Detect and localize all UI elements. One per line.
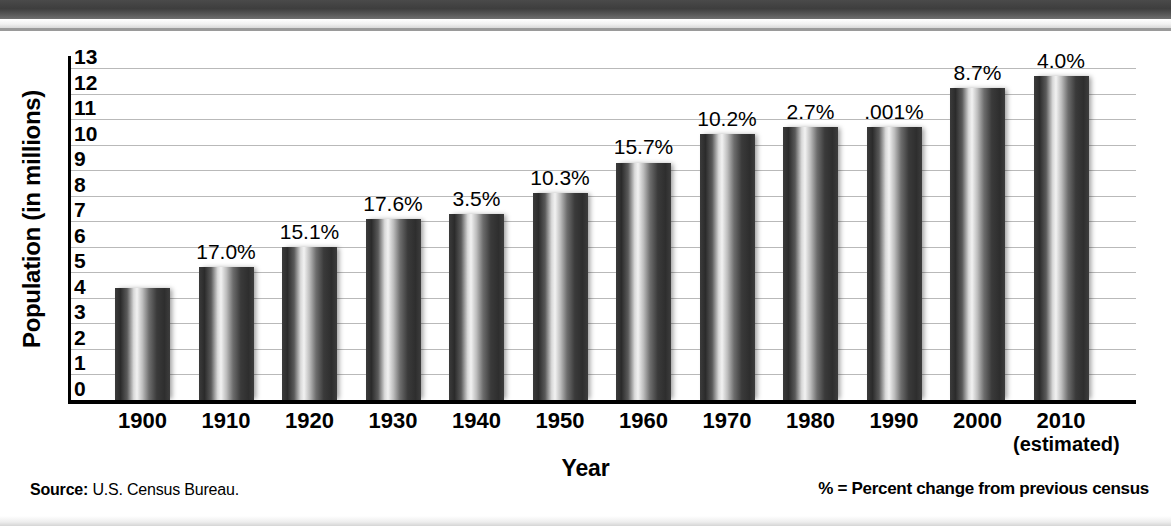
x-tick-label-1960: 1960 bbox=[596, 408, 692, 433]
x-tick-label-1910: 1910 bbox=[178, 408, 274, 433]
x-tick-label-1970: 1970 bbox=[679, 408, 775, 433]
bar-2010 bbox=[1034, 76, 1089, 400]
y-tick-label: 1 bbox=[74, 352, 86, 373]
x-axis-title: Year bbox=[0, 455, 1171, 482]
bar-1900 bbox=[115, 288, 170, 400]
y-tick-label: 10 bbox=[74, 123, 97, 144]
x-tick-label-1980: 1980 bbox=[763, 408, 859, 433]
x-tick-label-1940: 1940 bbox=[429, 408, 525, 433]
y-tick-label: 11 bbox=[74, 97, 96, 118]
bar-1920 bbox=[282, 247, 337, 400]
y-tick-label: 2 bbox=[74, 327, 86, 348]
x-tick-label-1900: 1900 bbox=[95, 408, 191, 433]
y-tick-label: 0 bbox=[74, 378, 86, 399]
bar-annotation-1950: 10.3% bbox=[511, 166, 609, 190]
x-tick-year: 1960 bbox=[619, 408, 668, 433]
x-tick-year: 1900 bbox=[118, 408, 167, 433]
y-tick-label: 13 bbox=[74, 46, 97, 67]
y-tick-label: 3 bbox=[74, 301, 86, 322]
title-banner bbox=[0, 0, 1171, 19]
x-tick-year: 2000 bbox=[953, 408, 1002, 433]
x-tick-year: 1990 bbox=[870, 408, 919, 433]
bar-1930 bbox=[366, 219, 421, 400]
x-axis-line bbox=[68, 400, 1136, 404]
y-tick-label: 5 bbox=[74, 250, 86, 271]
bar-1910 bbox=[199, 267, 254, 400]
bar-1960 bbox=[616, 163, 671, 401]
x-tick-year: 1950 bbox=[536, 408, 585, 433]
x-tick-year: 1910 bbox=[202, 408, 251, 433]
bar-1940 bbox=[449, 214, 504, 400]
header-divider bbox=[0, 28, 1171, 31]
source-value: U.S. Census Bureau. bbox=[92, 481, 239, 498]
bar-annotation-1910: 17.0% bbox=[177, 240, 275, 264]
x-tick-label-2010: 2010(estimated) bbox=[1013, 408, 1109, 456]
banner-gloss bbox=[0, 19, 1171, 28]
bar-2000 bbox=[950, 88, 1005, 400]
y-tick-label: 9 bbox=[74, 148, 86, 169]
x-tick-label-1990: 1990 bbox=[846, 408, 942, 433]
chart-plot-area: 012345678910111213 17.0%15.1%17.6%3.5%10… bbox=[68, 56, 1136, 404]
bar-annotation-1990: .001% bbox=[845, 100, 943, 124]
y-tick-label: 6 bbox=[74, 225, 86, 246]
x-tick-year: 1970 bbox=[703, 408, 752, 433]
x-tick-label-2000: 2000 bbox=[930, 408, 1026, 433]
y-axis-title: Population (in millions) bbox=[18, 44, 46, 394]
x-tick-label-1950: 1950 bbox=[512, 408, 608, 433]
bar-annotation-1940: 3.5% bbox=[428, 187, 526, 211]
y-tick-label: 8 bbox=[74, 174, 86, 195]
x-tick-sublabel: (estimated) bbox=[1013, 433, 1109, 456]
y-tick-label: 12 bbox=[74, 72, 97, 93]
percent-legend-note: % = Percent change from previous census bbox=[818, 479, 1149, 499]
x-tick-year: 1980 bbox=[786, 408, 835, 433]
bar-1980 bbox=[783, 127, 838, 400]
x-tick-year: 2010 bbox=[1037, 408, 1086, 433]
y-axis-line bbox=[68, 56, 71, 404]
bottom-edge bbox=[0, 516, 1171, 526]
x-tick-labels-group: 1900191019201930194019501960197019801990… bbox=[68, 408, 1136, 460]
bar-1970 bbox=[700, 134, 755, 400]
source-note: Source: U.S. Census Bureau. bbox=[30, 481, 239, 499]
x-tick-year: 1920 bbox=[285, 408, 334, 433]
x-tick-label-1930: 1930 bbox=[345, 408, 441, 433]
y-tick-label: 7 bbox=[74, 199, 86, 220]
bar-1950 bbox=[533, 193, 588, 400]
source-label: Source: bbox=[30, 481, 88, 498]
x-tick-year: 1940 bbox=[452, 408, 501, 433]
x-tick-year: 1930 bbox=[369, 408, 418, 433]
bar-1990 bbox=[867, 127, 922, 400]
y-tick-label: 4 bbox=[74, 276, 86, 297]
bar-annotation-2010: 4.0% bbox=[1012, 49, 1110, 73]
bar-annotation-1920: 15.1% bbox=[261, 220, 359, 244]
bar-annotation-1960: 15.7% bbox=[595, 135, 693, 159]
x-tick-label-1920: 1920 bbox=[262, 408, 358, 433]
